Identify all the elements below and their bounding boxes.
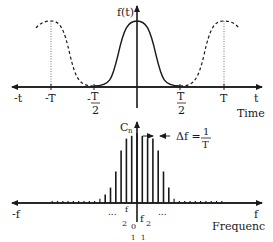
t-label: t <box>254 92 259 105</box>
pos-half-den: 2 <box>178 104 185 117</box>
ft-label: f(t) <box>117 6 134 19</box>
cn-sub: n <box>128 127 133 135</box>
delta-f-num: 1 <box>203 126 209 137</box>
neg-half-den: 2 <box>92 104 99 117</box>
pulse-dashed-left <box>36 21 94 86</box>
neg-T-label: -T <box>45 92 56 105</box>
frequency-domain-plot: Δf = 1 T C n -f f Frequenc ... ... f 0 f… <box>12 121 265 242</box>
pos-half-num: T <box>177 90 185 103</box>
svg-text:1: 1 <box>141 234 145 242</box>
svg-text:2: 2 <box>146 219 151 228</box>
svg-text:f: f <box>140 213 145 224</box>
delta-f-den: T <box>202 139 209 150</box>
spectral-lines <box>52 133 222 203</box>
diagram-canvas: f(t) -t -T - T 2 T 2 T t Time Δf = 1 T C… <box>0 0 273 242</box>
svg-text:2: 2 <box>122 219 127 228</box>
svg-text:1: 1 <box>131 234 135 242</box>
neg-f-label: -f <box>12 208 21 221</box>
svg-text:0: 0 <box>131 222 136 231</box>
neg-t-label: -t <box>14 92 23 105</box>
ellipsis-right: ... <box>158 207 167 217</box>
time-title: Time <box>237 107 265 120</box>
delta-f-label: Δf = <box>176 130 201 143</box>
pulse-dashed-right <box>180 21 239 86</box>
svg-text:f: f <box>125 205 129 214</box>
frequency-title: Frequenc <box>212 220 265 233</box>
neg-half-num: T <box>91 90 99 103</box>
pos-T-label: T <box>220 92 228 105</box>
ellipsis-left: ... <box>108 207 117 217</box>
time-domain-plot: f(t) -t -T - T 2 T 2 T t Time <box>12 6 265 120</box>
